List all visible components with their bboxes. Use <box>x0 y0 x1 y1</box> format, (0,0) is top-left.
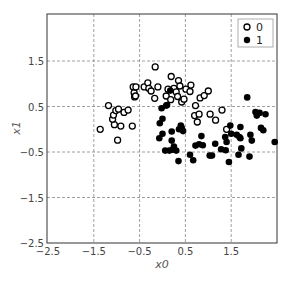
data-point-class-1 <box>256 110 263 117</box>
data-point-class-0 <box>97 126 103 132</box>
x-axis-label: x0 <box>154 258 169 271</box>
data-point-class-1 <box>238 145 245 152</box>
tick-labels: −2.5−1.5−0.50.51.5−2.5−1.5−0.50.51.5 <box>20 56 239 257</box>
data-point-class-1 <box>260 127 267 134</box>
data-point-class-1 <box>190 157 197 164</box>
data-point-class-0 <box>118 123 124 129</box>
data-point-class-1 <box>235 151 242 158</box>
data-point-class-1 <box>247 131 254 138</box>
x-tick-label: −1.5 <box>82 246 106 257</box>
data-point-class-1 <box>159 116 166 123</box>
data-points <box>97 64 278 165</box>
data-point-class-0 <box>152 95 158 101</box>
data-point-class-1 <box>237 124 244 131</box>
data-point-class-0 <box>168 74 174 80</box>
data-point-class-1 <box>180 128 187 135</box>
x-tick-label: 1.5 <box>223 246 239 257</box>
data-point-class-1 <box>249 137 256 144</box>
legend: 0 1 <box>238 19 273 47</box>
data-point-class-0 <box>106 103 112 109</box>
x-tick-label: −0.5 <box>127 246 151 257</box>
data-point-class-0 <box>152 64 158 70</box>
data-point-class-1 <box>228 131 235 138</box>
y-tick-label: −2.5 <box>20 238 44 249</box>
data-point-class-1 <box>159 131 166 138</box>
data-point-class-1 <box>173 147 180 154</box>
data-point-class-1 <box>200 142 207 149</box>
data-point-class-1 <box>168 137 175 144</box>
data-point-class-0 <box>188 82 194 88</box>
data-point-class-1 <box>198 133 205 140</box>
data-point-class-1 <box>237 135 244 142</box>
x-tick-label: 0.5 <box>177 246 193 257</box>
legend-label-1: 1 <box>256 34 263 47</box>
data-point-class-0 <box>187 89 193 95</box>
data-point-class-0 <box>168 97 174 103</box>
data-point-class-0 <box>177 83 183 89</box>
data-point-class-0 <box>205 88 211 94</box>
legend-marker-hollow-icon <box>244 24 250 30</box>
data-point-class-1 <box>167 87 174 94</box>
legend-label-0: 0 <box>256 21 263 34</box>
data-point-class-0 <box>181 96 187 102</box>
data-point-class-0 <box>175 94 181 100</box>
data-point-class-0 <box>219 107 225 113</box>
data-point-class-0 <box>133 84 139 90</box>
data-point-class-1 <box>209 152 216 159</box>
data-point-class-0 <box>207 111 213 117</box>
y-tick-label: −0.5 <box>20 147 44 158</box>
data-point-class-0 <box>194 119 200 125</box>
data-point-class-0 <box>133 93 139 99</box>
legend-marker-filled-icon <box>244 37 250 43</box>
data-point-class-1 <box>222 147 229 154</box>
data-point-class-0 <box>115 137 121 143</box>
data-point-class-0 <box>196 111 202 117</box>
data-point-class-1 <box>212 141 219 148</box>
data-point-class-1 <box>227 122 234 129</box>
y-tick-label: 1.5 <box>28 56 44 67</box>
data-point-class-1 <box>246 153 253 160</box>
data-point-class-1 <box>168 128 175 135</box>
data-point-class-1 <box>244 94 251 101</box>
data-point-class-0 <box>125 107 131 113</box>
y-axis-label: x1 <box>10 121 23 136</box>
y-tick-label: 0.5 <box>28 102 44 113</box>
scatter-chart: −2.5−1.5−0.50.51.5−2.5−1.5−0.50.51.5 0 1… <box>0 0 291 283</box>
data-point-class-0 <box>148 88 154 94</box>
data-point-class-1 <box>223 139 230 146</box>
data-point-class-0 <box>129 123 135 129</box>
y-tick-label: −1.5 <box>20 193 44 204</box>
data-point-class-1 <box>271 139 278 146</box>
data-point-class-1 <box>175 158 182 165</box>
data-point-class-1 <box>226 159 233 166</box>
data-point-class-0 <box>193 103 199 109</box>
data-point-class-0 <box>213 117 219 123</box>
data-point-class-0 <box>155 84 161 90</box>
data-point-class-1 <box>187 151 194 158</box>
data-point-class-1 <box>164 102 171 109</box>
data-point-class-1 <box>262 111 269 118</box>
